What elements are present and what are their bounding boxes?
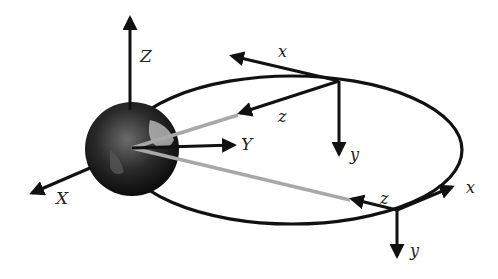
bottom-z-axis [352, 199, 397, 210]
inertial-x-label: X [54, 188, 69, 208]
bottom-y-label: y [409, 241, 420, 260]
top-x-label: x [278, 42, 287, 61]
orbit-frames-diagram: Z X Y x z y x z y [0, 0, 498, 279]
bottom-z-label: z [379, 189, 389, 208]
top-y-label: y [349, 145, 360, 164]
top-z-label: z [277, 107, 287, 126]
bottom-x-label: x [466, 178, 475, 197]
body-frame-bottom: x z y [352, 178, 475, 260]
inertial-z-label: Z [139, 46, 153, 66]
top-z-axis [240, 81, 339, 113]
inertial-y-label: Y [241, 134, 254, 154]
bottom-x-axis [397, 187, 452, 210]
